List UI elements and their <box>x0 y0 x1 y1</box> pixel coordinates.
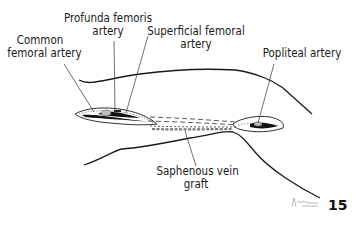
label-superficial-femoral-artery: Superficial femoral artery <box>145 25 246 51</box>
popliteal-incision <box>233 116 283 131</box>
figure-number: 15 <box>328 197 347 213</box>
thigh-upper-contour <box>79 69 312 114</box>
label-saphenous-vein-graft: Saphenous vein graft <box>156 165 235 191</box>
label-profunda-femoris-artery: Profunda femoris artery <box>63 12 152 38</box>
leader-popliteal <box>258 64 274 123</box>
leader-profunda <box>114 41 115 110</box>
label-line: femoral artery <box>7 47 72 60</box>
label-popliteal-artery: Popliteal artery <box>255 47 350 60</box>
label-line: graft <box>156 178 235 191</box>
label-line: artery <box>63 25 152 38</box>
groin-incision <box>75 108 157 125</box>
leader-common-femoral <box>64 64 94 112</box>
label-line: artery <box>145 38 246 51</box>
bypass-diagram: Common femoral artery Profunda femoris a… <box>0 0 361 228</box>
artist-signature <box>292 198 318 207</box>
leader-saphenous <box>185 131 196 166</box>
label-line: Popliteal artery <box>255 47 350 60</box>
saphenous-graft-tunnel <box>148 117 236 129</box>
